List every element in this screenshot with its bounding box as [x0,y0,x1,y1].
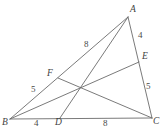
cevian-BE [10,62,139,119]
point-label-d: D [55,118,62,128]
point-label-f: F [47,69,53,79]
triangle-figure [0,0,167,131]
length-label-ae: 4 [138,31,143,40]
cevian-CF [58,78,152,118]
vertex-label-c: C [153,117,159,127]
length-label-bd: 4 [34,119,39,128]
side-AB [10,17,128,119]
vertex-label-a: A [130,5,136,15]
length-label-af: 8 [84,40,89,49]
point-label-e: E [142,52,148,62]
length-label-fb: 5 [31,85,36,94]
side-BC [10,118,152,119]
geometry-diagram: A B C D E F 8 5 4 5 4 8 [0,0,167,131]
vertex-label-b: B [2,118,8,128]
length-label-dc: 8 [103,119,108,128]
length-label-ec: 5 [146,82,151,91]
